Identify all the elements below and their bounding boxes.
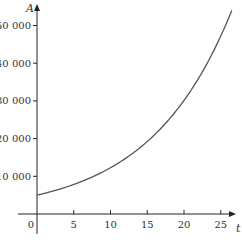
data-curve (37, 10, 232, 195)
y-tick-label: 30 000 (0, 95, 31, 106)
x-tick-label: 15 (141, 219, 154, 230)
x-tick-label: 25 (214, 219, 227, 230)
x-tick-label: 10 (104, 219, 117, 230)
y-tick-label: 40 000 (0, 58, 31, 69)
chart: 051015202510 00020 00030 00040 00050 000… (0, 0, 242, 242)
x-axis-label: t (236, 222, 241, 235)
ticks: 051015202510 00020 00030 00040 00050 000 (0, 20, 227, 230)
y-tick-label: 50 000 (0, 20, 31, 31)
x-tick-label: 20 (178, 219, 191, 230)
y-axis-label: A (25, 2, 34, 15)
y-tick-label: 20 000 (0, 133, 31, 144)
axes (18, 4, 236, 234)
x-tick-label: 5 (71, 219, 77, 230)
y-axis-arrow-icon (34, 4, 40, 11)
x-axis-arrow-icon (229, 211, 236, 217)
x-tick-label: 0 (28, 219, 34, 230)
y-tick-label: 10 000 (0, 171, 31, 182)
